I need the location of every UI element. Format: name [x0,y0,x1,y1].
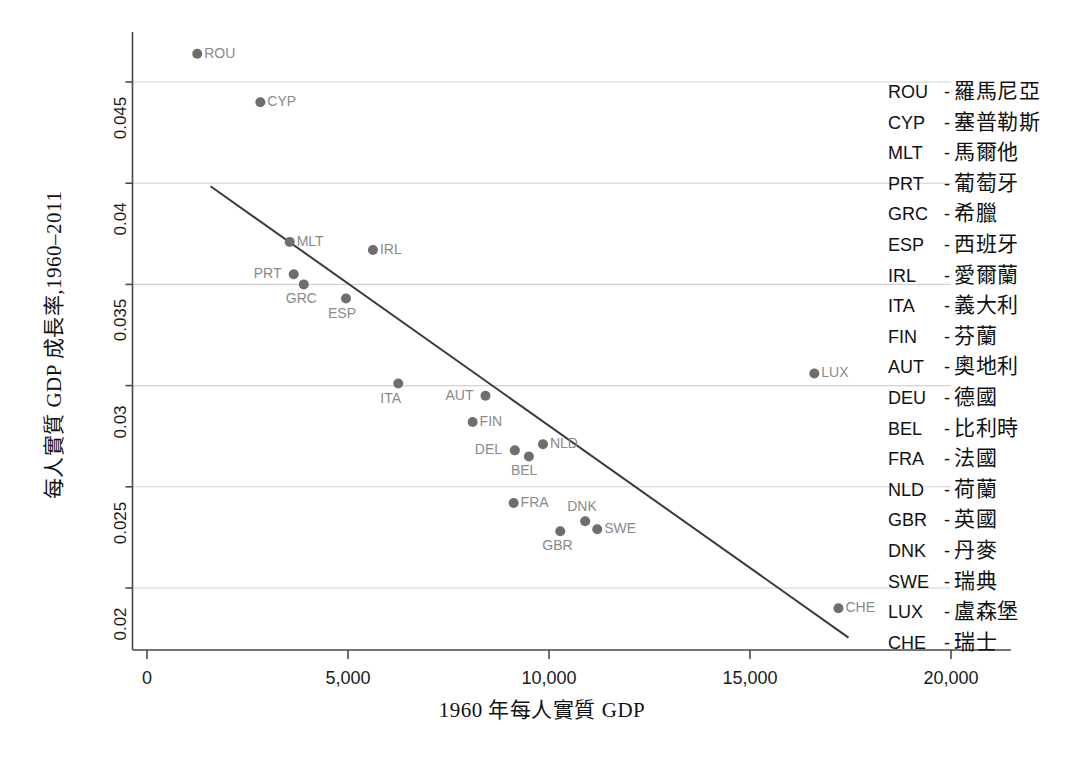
legend-separator: - [940,480,954,501]
legend-separator: - [940,357,954,378]
data-point-che [833,603,843,613]
point-label-mlt: MLT [297,234,324,248]
legend-country-name: 葡萄牙 [954,166,1019,196]
legend-country-name: 荷蘭 [954,472,997,502]
point-label-dnk: DNK [567,499,597,513]
data-points [192,49,843,614]
legend-separator: - [940,572,954,593]
legend-row: NLD-荷蘭 [888,472,1073,503]
legend-row: FRA-法國 [888,441,1073,472]
data-point-fin [468,417,478,427]
legend-code: CYP [888,113,940,134]
data-point-mlt [285,237,295,247]
legend-separator: - [940,235,954,256]
gridlines [133,82,952,588]
point-label-esp: ESP [328,306,356,320]
legend-separator: - [940,296,954,317]
data-point-prt [289,269,299,279]
legend-country-name: 比利時 [954,411,1019,441]
data-point-fra [509,498,519,508]
point-label-gbr: GBR [542,538,572,552]
legend-row: CHE-瑞士 [888,625,1073,656]
legend-country-name: 瑞士 [954,625,997,655]
legend-row: AUT-奧地利 [888,349,1073,380]
legend-separator: - [940,449,954,470]
legend-code: BEL [888,419,940,440]
legend-code: ESP [888,235,940,256]
point-label-prt: PRT [254,266,282,280]
legend-code: SWE [888,572,940,593]
point-label-fra: FRA [521,495,549,509]
point-label-nld: NLD [550,436,578,450]
legend-separator: - [940,633,954,654]
point-label-del: DEL [475,442,502,456]
data-point-cyp [255,97,265,107]
point-label-fin: FIN [480,414,503,428]
data-point-lux [809,368,819,378]
legend-row: GBR-英國 [888,502,1073,533]
point-label-bel: BEL [511,463,537,477]
data-point-nld [538,439,548,449]
data-point-swe [592,524,602,534]
legend-country-name: 義大利 [954,288,1019,318]
legend-row: FIN-芬蘭 [888,319,1073,350]
legend-code: ITA [888,296,940,317]
point-label-swe: SWE [604,521,636,535]
legend-country-name: 塞普勒斯 [954,105,1040,135]
legend-code: GRC [888,204,940,225]
legend-code: PRT [888,174,940,195]
country-code-legend: ROU-羅馬尼亞CYP-塞普勒斯MLT-馬爾他PRT-葡萄牙GRC-希臘ESP-… [888,74,1073,655]
legend-country-name: 西班牙 [954,227,1019,257]
regression-line [211,186,849,637]
data-point-grc [299,279,309,289]
data-point-rou [192,49,202,59]
point-label-rou: ROU [204,46,235,60]
legend-row: GRC-希臘 [888,196,1073,227]
legend-country-name: 愛爾蘭 [954,258,1019,288]
legend-separator: - [940,602,954,623]
data-point-bel [524,451,534,461]
legend-code: MLT [888,143,940,164]
scatter-chart-figure: 每人實質 GDP 成長率,1960–2011 1960 年每人實質 GDP 0.… [0,0,1073,758]
point-label-aut: AUT [445,388,473,402]
legend-country-name: 羅馬尼亞 [954,74,1040,104]
legend-code: DEU [888,388,940,409]
legend-code: LUX [888,602,940,623]
legend-row: CYP-塞普勒斯 [888,105,1073,136]
legend-code: GBR [888,510,940,531]
legend-separator: - [940,541,954,562]
legend-separator: - [940,113,954,134]
legend-separator: - [940,327,954,348]
trend-line [211,186,849,637]
point-label-che: CHE [845,600,875,614]
legend-code: NLD [888,480,940,501]
legend-country-name: 英國 [954,502,997,532]
legend-row: SWE-瑞典 [888,564,1073,595]
legend-country-name: 馬爾他 [954,135,1019,165]
legend-country-name: 奧地利 [954,349,1019,379]
legend-country-name: 希臘 [954,196,997,226]
legend-row: DEU-德國 [888,380,1073,411]
legend-separator: - [940,82,954,103]
point-label-irl: IRL [380,242,402,256]
legend-separator: - [940,204,954,225]
legend-country-name: 瑞典 [954,564,997,594]
legend-separator: - [940,174,954,195]
legend-row: MLT-馬爾他 [888,135,1073,166]
legend-row: IRL-愛爾蘭 [888,258,1073,289]
legend-code: AUT [888,357,940,378]
data-point-irl [368,245,378,255]
data-point-dnk [580,516,590,526]
legend-row: LUX-盧森堡 [888,594,1073,625]
data-point-gbr [555,526,565,536]
legend-separator: - [940,419,954,440]
point-label-ita: ITA [380,391,401,405]
legend-code: FRA [888,449,940,470]
legend-country-name: 丹麥 [954,533,997,563]
data-point-ita [393,379,403,389]
legend-row: DNK-丹麥 [888,533,1073,564]
legend-separator: - [940,510,954,531]
legend-row: BEL-比利時 [888,411,1073,442]
legend-code: DNK [888,541,940,562]
legend-country-name: 德國 [954,380,997,410]
